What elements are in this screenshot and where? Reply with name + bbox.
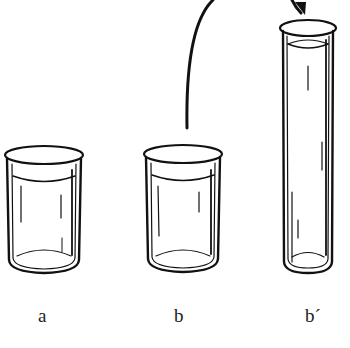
cylinder-b-prime (280, 20, 336, 273)
conservation-figure (0, 0, 350, 348)
label-b: b (174, 306, 184, 325)
beaker-a (5, 146, 83, 273)
label-b-prime: b´ (305, 306, 321, 325)
label-a: a (38, 306, 46, 325)
beaker-b (144, 145, 222, 272)
